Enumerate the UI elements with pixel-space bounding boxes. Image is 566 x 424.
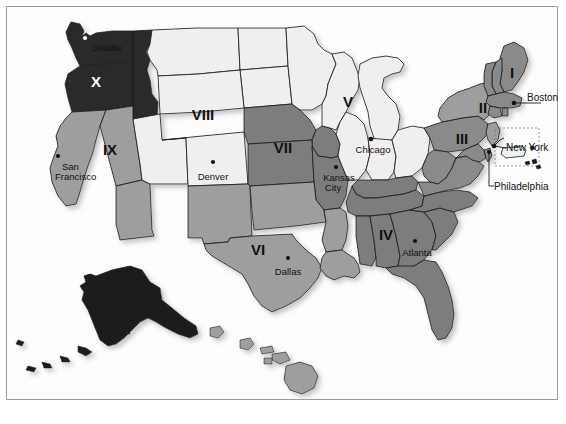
- virgin-islands-4: [536, 165, 541, 169]
- hawaii-oahu: [240, 338, 254, 350]
- inset-hawaii: [210, 326, 318, 394]
- alaska-aleutians-2: [60, 356, 70, 362]
- inset-alaska: [16, 266, 198, 372]
- state-nd: [238, 28, 288, 70]
- city-label-kansas-city2: City: [325, 182, 342, 193]
- state-ok: [250, 182, 326, 230]
- region-label-ii: II: [479, 99, 487, 116]
- region-i-shapes: [484, 42, 528, 118]
- hawaii-kauai: [210, 326, 224, 338]
- state-ar: [322, 208, 348, 252]
- state-de: [484, 148, 492, 162]
- city-label-seattle: Seattle: [92, 42, 122, 53]
- map-canvas: I II III IV V VI VII VIII IX X Seattle S…: [0, 0, 566, 424]
- region-label-x: X: [91, 73, 101, 90]
- city-label-denver: Denver: [198, 171, 229, 182]
- region-label-ix: IX: [103, 141, 117, 158]
- dot-dallas: [286, 256, 290, 260]
- city-label-chicago: Chicago: [356, 144, 391, 155]
- region-iv-shapes: [346, 176, 478, 340]
- callout-label-boston: Boston: [527, 92, 558, 103]
- region-label-vi: VI: [251, 241, 265, 258]
- virgin-islands-3: [532, 159, 537, 164]
- state-fl: [386, 260, 454, 340]
- state-nm: [188, 184, 252, 244]
- region-label-i: I: [510, 64, 514, 81]
- region-x-shapes: [65, 22, 158, 119]
- state-mt: [147, 28, 240, 76]
- region-label-vii: VII: [274, 139, 292, 156]
- hawaii-bigisland: [284, 362, 318, 394]
- state-ct: [488, 106, 502, 118]
- us-federal-regions-map: I II III IV V VI VII VIII IX X Seattle S…: [0, 0, 566, 424]
- dot-philadelphia: [487, 150, 491, 154]
- callout-label-new-york: New York: [506, 142, 549, 153]
- dot-chicago: [369, 137, 374, 142]
- alaska-aleutians-5: [16, 340, 24, 346]
- state-sd: [240, 66, 292, 108]
- alaska-aleutians-1: [78, 346, 92, 356]
- virgin-islands-2: [525, 161, 530, 165]
- dot-seattle: [83, 36, 87, 40]
- dot-boston: [512, 101, 517, 106]
- alaska-mainland: [80, 266, 198, 346]
- hawaii-lanai: [264, 358, 272, 364]
- dot-atlanta: [413, 239, 417, 243]
- state-la: [320, 250, 360, 280]
- alaska-aleutians-4: [26, 366, 36, 372]
- hawaii-molokai: [260, 346, 274, 354]
- dot-san-francisco: [56, 154, 60, 158]
- region-label-iii: III: [456, 130, 469, 147]
- region-label-v: V: [343, 93, 353, 110]
- city-label-atlanta: Atlanta: [402, 247, 432, 258]
- dot-denver: [211, 160, 215, 164]
- state-ut: [133, 114, 188, 184]
- alaska-aleutians-3: [42, 362, 52, 368]
- dot-new-york: [492, 144, 497, 149]
- city-label-dallas: Dallas: [275, 266, 302, 277]
- dot-kansas-city: [334, 165, 338, 169]
- hawaii-maui: [272, 352, 290, 364]
- callout-label-philadelphia: Philadelphia: [494, 181, 549, 192]
- state-az: [116, 180, 154, 240]
- region-label-iv: IV: [379, 226, 393, 243]
- region-label-viii: VIII: [192, 106, 215, 123]
- state-ri: [502, 108, 508, 116]
- region-iii-shapes: [418, 116, 492, 196]
- city-label-francisco: Francisco: [55, 171, 96, 182]
